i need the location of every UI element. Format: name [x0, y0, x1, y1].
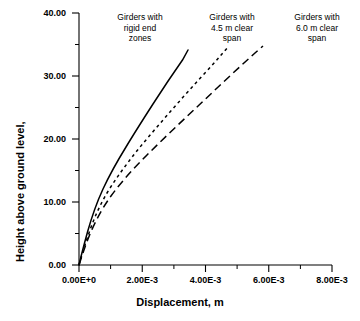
x-axis-title: Displacement, m: [0, 296, 360, 308]
y-tick-label-20: 20.00: [22, 134, 66, 144]
x-major-ticks: [79, 265, 332, 272]
annotation-45m-clear-span: Girders with 4.5 m clear span: [196, 12, 268, 44]
x-tick-label-2e-3: 2.00E-3: [115, 275, 169, 285]
y-tick-label-0: 0.00: [22, 260, 66, 270]
annotation-rigid-end-zones: Girders with rigid end zones: [104, 12, 176, 44]
figure-caption: [6, 311, 358, 321]
x-tick-label-4e-3: 4.00E-3: [179, 275, 233, 285]
y-tick-label-30: 30.00: [22, 71, 66, 81]
x-tick-label-0: 0.00E+0: [52, 275, 106, 285]
annotation-60m-clear-span: Girders with 6.0 m clear span: [281, 12, 353, 44]
y-tick-label-40: 40.00: [22, 8, 66, 18]
x-tick-label-8e-3: 8.00E-3: [305, 275, 359, 285]
y-axis-title: Height above ground level,: [14, 121, 26, 262]
chart-figure: 40.00 30.00 20.00 10.00 0.00 0.00E+0 2.0…: [0, 0, 360, 321]
y-tick-label-10: 10.00: [22, 197, 66, 207]
series-line-45m-clear-span: [79, 46, 229, 265]
x-tick-label-6e-3: 6.00E-3: [242, 275, 296, 285]
y-major-ticks: [72, 13, 79, 265]
series-line-rigid-end-zones: [79, 50, 188, 265]
series-line-60m-clear-span: [79, 46, 263, 265]
plot-area: [0, 0, 360, 321]
